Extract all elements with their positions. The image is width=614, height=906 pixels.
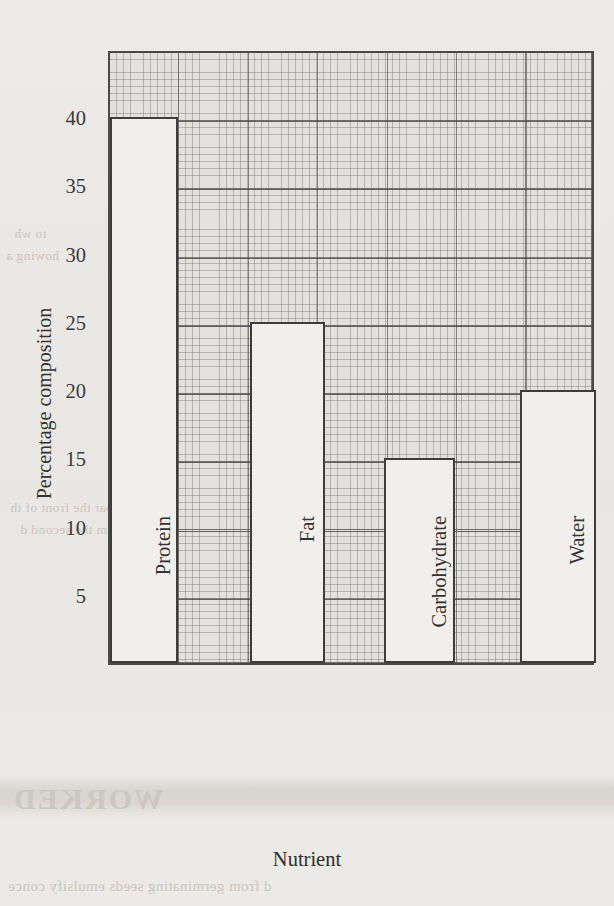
x-axis-label-fat: Fat [296, 516, 319, 676]
x-axis-label-carbohydrate: Carbohydrate [428, 516, 451, 676]
x-axis-label-water: Water [566, 516, 589, 676]
bar-series [110, 53, 592, 663]
x-axis-title: Nutrient [0, 848, 614, 871]
y-tick-5: 5 [76, 586, 86, 607]
y-axis-title: Percentage composition [33, 274, 56, 534]
y-tick-15: 15 [66, 449, 87, 470]
y-tick-30: 30 [66, 245, 87, 266]
x-axis-label-protein: Protein [152, 516, 175, 676]
bar-chart: 403530252015105 Percentage composition P… [0, 0, 614, 906]
y-tick-10: 10 [66, 518, 87, 539]
y-tick-25: 25 [66, 313, 87, 334]
plot-area [108, 51, 594, 665]
y-tick-35: 35 [66, 176, 87, 197]
y-tick-40: 40 [66, 108, 87, 129]
y-tick-20: 20 [66, 381, 87, 402]
